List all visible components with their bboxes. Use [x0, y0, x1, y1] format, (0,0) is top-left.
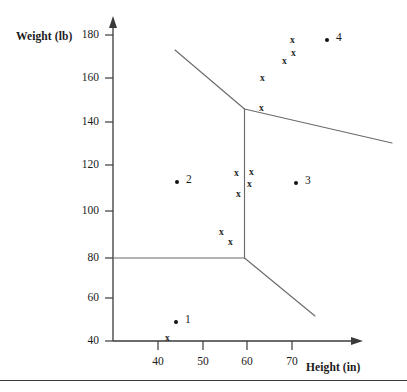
- centroid-label-1: 1: [185, 314, 191, 326]
- centroid-dot-3: [294, 181, 298, 185]
- caption-text: [26, 385, 286, 392]
- y-tick-label-140: 140: [75, 115, 99, 127]
- centroid-dot-4: [325, 38, 329, 42]
- data-marker-x: x: [165, 334, 170, 344]
- x-axis-ticks: [158, 341, 292, 350]
- x-tick-label-50: 50: [193, 355, 213, 367]
- y-tick-label-120: 120: [75, 158, 99, 170]
- y-tick-label-40: 40: [75, 334, 99, 346]
- data-marker-x: x: [249, 168, 254, 178]
- x-tick-label-40: 40: [148, 355, 168, 367]
- data-marker-x: x: [282, 57, 287, 67]
- data-marker-x: x: [236, 190, 241, 200]
- centroid-label-2: 2: [186, 174, 192, 186]
- centroid-label-3: 3: [305, 175, 311, 187]
- y-axis-arrowhead: [109, 16, 117, 28]
- boundary-lower-right: [245, 258, 316, 316]
- centroid-label-4: 4: [336, 32, 342, 44]
- scatter-plot-figure: Weight (lb) Height (in) 180 160 140 120 …: [0, 0, 407, 392]
- boundary-upper-right: [245, 109, 393, 143]
- data-marker-x: x: [259, 104, 264, 114]
- x-tick-label-60: 60: [237, 355, 257, 367]
- y-tick-label-100: 100: [75, 204, 99, 216]
- data-marker-x: x: [291, 49, 296, 59]
- data-marker-x: x: [290, 36, 295, 46]
- y-tick-label-80: 80: [75, 251, 99, 263]
- plot-canvas: [0, 0, 407, 392]
- data-marker-x: x: [228, 238, 233, 248]
- data-marker-x: x: [234, 169, 239, 179]
- centroid-dot-1: [174, 320, 178, 324]
- boundary-upper-left: [175, 50, 245, 109]
- y-axis-ticks: [105, 35, 113, 341]
- x-tick-label-70: 70: [282, 355, 302, 367]
- data-marker-x: x: [247, 180, 252, 190]
- y-axis-title: Weight (lb): [16, 30, 72, 42]
- decision-boundaries: [113, 50, 392, 316]
- centroid-dot-2: [175, 180, 179, 184]
- data-marker-x: x: [260, 74, 265, 84]
- x-axis-arrowhead: [351, 337, 363, 345]
- y-tick-label-180: 180: [75, 28, 99, 40]
- page-divider-rule: [0, 380, 407, 381]
- y-tick-label-160: 160: [75, 71, 99, 83]
- data-marker-x: x: [219, 228, 224, 238]
- y-tick-label-60: 60: [75, 291, 99, 303]
- x-axis-title: Height (in): [306, 361, 360, 373]
